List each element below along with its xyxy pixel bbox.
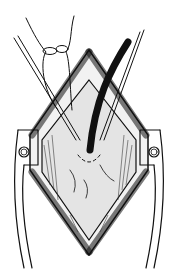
surgical-illustration [0,0,178,279]
illustration-canvas [0,0,178,279]
